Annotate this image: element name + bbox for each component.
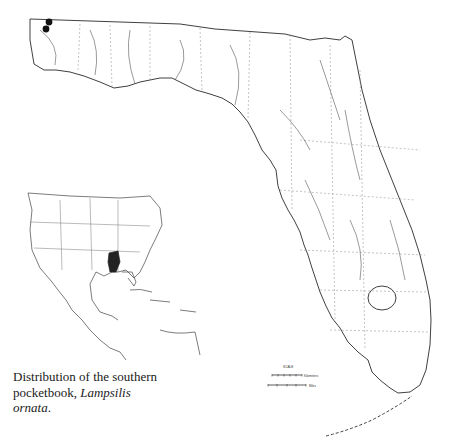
record-dot	[43, 26, 50, 33]
scale-unit-mi: Miles	[309, 384, 317, 388]
caption-end: .	[48, 400, 51, 415]
caption-genus: Lampsilis	[80, 385, 131, 400]
inset-map	[28, 193, 200, 360]
scale-bar: SCALE Kilometers Miles	[268, 365, 319, 388]
caption-species: ornata	[13, 400, 48, 415]
caption-line-1: Distribution of the southern	[13, 369, 157, 384]
figure-caption: Distribution of the southern pocketbook,…	[13, 369, 203, 416]
record-dot	[46, 19, 53, 26]
scale-unit-km: Kilometers	[304, 374, 319, 378]
scale-title: SCALE	[283, 365, 293, 369]
caption-line-2: pocketbook,	[13, 385, 80, 400]
